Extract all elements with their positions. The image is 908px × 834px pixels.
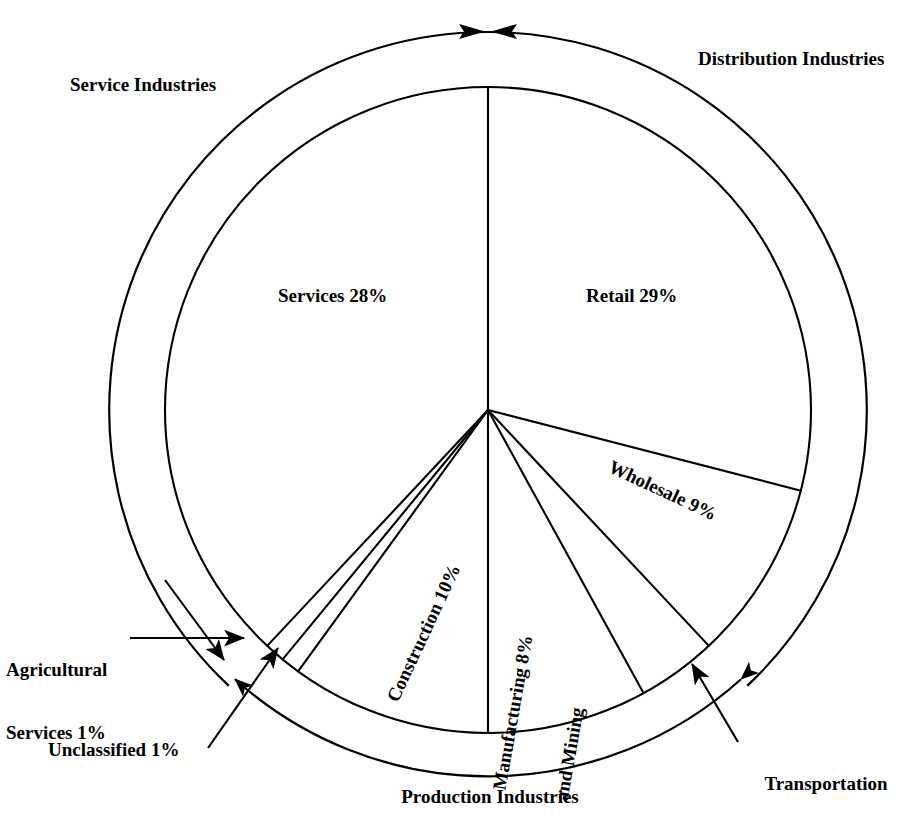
slice-label-manufacturing-mining: Manufacturing 8% and Mining (446, 626, 641, 810)
callout-agricultural-line1: Agricultural (6, 659, 107, 680)
slice-label-services: Services 28% (278, 285, 387, 306)
chart-vector-layer (0, 0, 908, 834)
callout-label-unclassified: Unclassified 1% (48, 739, 179, 760)
callout-label-transportation-communication: Transportation Communication 4% (744, 730, 908, 834)
pie-chart-figure: Service Industries Distribution Industri… (0, 0, 908, 834)
group-label-service-industries: Service Industries (70, 74, 216, 95)
group-label-distribution-industries: Distribution Industries (698, 48, 884, 69)
callout-transportation-line1: Transportation (744, 773, 908, 794)
unclassified-leader (208, 648, 278, 748)
callout-label-agricultural-services: Agricultural Services 1% (6, 616, 107, 786)
slice-label-manufacturing-line1: Manufacturing 8% (488, 633, 536, 791)
slice-label-retail: Retail 29% (586, 285, 677, 306)
transportation-leader (692, 664, 738, 742)
slice-label-manufacturing-line2: and Mining (551, 644, 599, 802)
